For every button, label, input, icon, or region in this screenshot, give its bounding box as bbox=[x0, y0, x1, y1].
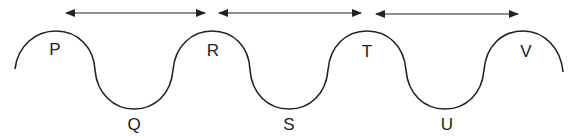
crest-label-p: P bbox=[49, 40, 60, 59]
crest-label-v: V bbox=[520, 42, 532, 61]
trough-label-s: S bbox=[283, 115, 294, 134]
wave-canvas: P R T V Q S U bbox=[0, 0, 579, 138]
trough-label-q: Q bbox=[127, 115, 140, 134]
trough-label-u: U bbox=[441, 115, 453, 134]
crest-label-t: T bbox=[362, 42, 372, 61]
wave-diagram: P R T V Q S U bbox=[0, 0, 579, 138]
wave-curve bbox=[15, 31, 563, 109]
crest-label-r: R bbox=[207, 41, 219, 60]
